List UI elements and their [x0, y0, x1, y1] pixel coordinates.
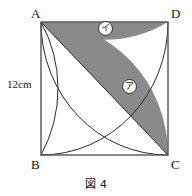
- vertex-label-c: C: [171, 158, 180, 171]
- geometry-figure: A D B C 12cm イ ア 図 4: [0, 0, 192, 196]
- vertex-label-a: A: [31, 7, 40, 20]
- vertex-label-d: D: [171, 7, 180, 20]
- vertex-label-b: B: [31, 158, 40, 171]
- geometry-diagram: [0, 0, 192, 196]
- figure-caption: 図 4: [0, 175, 192, 191]
- region-label-lower: ア: [122, 79, 137, 94]
- side-length-label: 12cm: [7, 79, 31, 90]
- region-label-upper: イ: [98, 21, 113, 36]
